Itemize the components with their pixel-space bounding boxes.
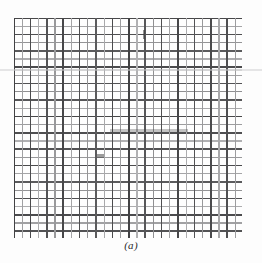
dark-horizontal-streak [110, 129, 188, 132]
figure-caption: (a) [0, 239, 262, 252]
ink-mark-left-lower [97, 154, 104, 158]
mesh-grid-plate [14, 18, 242, 238]
ink-tick-upper-mid [143, 30, 145, 39]
figure-container: (a) [0, 0, 262, 263]
mesh-grid-canvas [14, 18, 242, 238]
faint-scan-band [14, 69, 242, 71]
